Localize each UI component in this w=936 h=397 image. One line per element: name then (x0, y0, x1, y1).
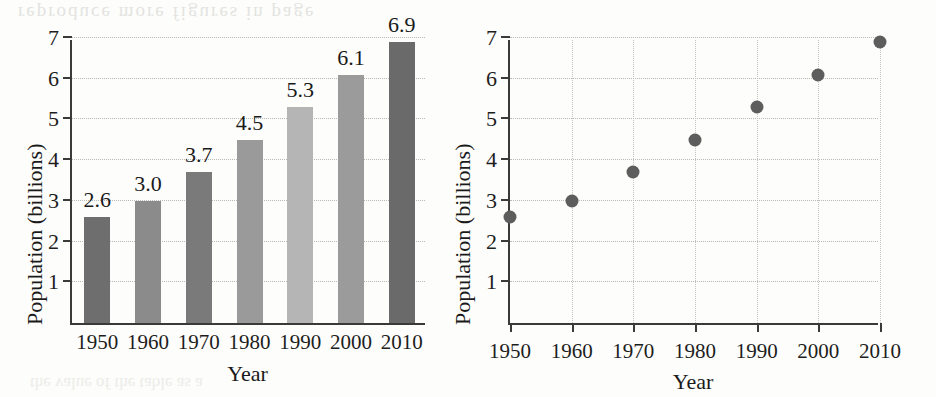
scatter-chart-vertical-gridline (818, 40, 819, 323)
scatter-chart-gridline (510, 159, 878, 160)
scatter-chart-x-tick (757, 323, 759, 332)
scatter-chart-y-tick-label: 5 (486, 106, 497, 132)
scatter-chart-x-tick (633, 323, 635, 332)
bar-value-label: 3.7 (185, 142, 213, 168)
scatter-chart-y-tick-label: 3 (486, 188, 497, 214)
bar-chart-y-tick (63, 199, 72, 201)
scatter-chart-y-tick-label: 2 (486, 229, 497, 255)
scatter-chart-gridline (510, 281, 878, 282)
scatter-chart-gridline (510, 241, 878, 242)
scatter-data-point (565, 194, 578, 207)
scatter-chart-x-tick-label: 1960 (551, 339, 593, 364)
scatter-chart-y-tick-label: 1 (486, 269, 497, 295)
bar-chart-x-tick-label: 1980 (229, 330, 271, 355)
bar (186, 172, 212, 323)
bar-chart-x-tick-label: 2010 (381, 330, 423, 355)
scatter-chart-vertical-gridline (695, 40, 696, 323)
scatter-chart-x-tick-label: 2000 (797, 339, 839, 364)
scatter-data-point (627, 166, 640, 179)
scatter-chart-y-tick (501, 36, 510, 38)
bar-value-label: 5.3 (286, 77, 314, 103)
scatter-data-point (689, 133, 702, 146)
bar-chart-x-tick-label: 1990 (279, 330, 321, 355)
bar-chart-plot-area: 12345672.619503.019603.719704.519805.319… (70, 40, 425, 325)
bar-chart-y-tick-label: 4 (48, 147, 59, 173)
bar-value-label: 6.9 (388, 12, 416, 38)
bar-value-label: 2.6 (84, 187, 112, 213)
scanned-figure-page: reproduce more figures in page the value… (0, 0, 936, 397)
bar-chart-y-tick (63, 158, 72, 160)
scatter-chart-gridline (510, 37, 878, 38)
scatter-chart-x-tick (880, 323, 882, 332)
scatter-chart-y-tick-label: 4 (486, 147, 497, 173)
scatter-chart-vertical-gridline (633, 40, 634, 323)
bar (135, 201, 161, 323)
bar-value-label: 3.0 (134, 171, 162, 197)
bar-value-label: 6.1 (337, 45, 365, 71)
scatter-chart-y-tick-label: 6 (486, 66, 497, 92)
bar-chart-gridline (72, 37, 425, 38)
scatter-chart-y-tick-label: 7 (486, 25, 497, 51)
bar (338, 75, 364, 323)
scatter-chart-vertical-gridline (572, 40, 573, 323)
scatter-chart-x-tick-label: 2010 (859, 339, 901, 364)
scatter-chart-gridline (510, 118, 878, 119)
bar-chart-y-tick (63, 77, 72, 79)
bar-chart-y-tick-label: 5 (48, 106, 59, 132)
bar-chart-y-tick (63, 280, 72, 282)
bar (389, 42, 415, 323)
scatter-chart-x-tick-label: 1950 (489, 339, 531, 364)
bar-chart-y-tick-label: 7 (48, 25, 59, 51)
scatter-data-point (750, 101, 763, 114)
bar-chart: Population (billions) 12345672.619503.01… (0, 0, 468, 397)
bar-chart-y-tick-label: 1 (48, 269, 59, 295)
bar (84, 217, 110, 323)
scatter-chart-x-tick (818, 323, 820, 332)
scatter-data-point (504, 211, 517, 224)
bar-chart-y-tick (63, 117, 72, 119)
scatter-chart-y-tick (501, 77, 510, 79)
scatter-chart-vertical-gridline (880, 40, 881, 323)
bar-chart-gridline (72, 78, 425, 79)
scatter-chart-y-axis-title: Population (billions) (450, 144, 476, 326)
bar-chart-x-tick-label: 2000 (330, 330, 372, 355)
bar-chart-y-axis-title: Population (billions) (22, 144, 48, 326)
bar (287, 107, 313, 323)
scatter-chart-y-tick (501, 117, 510, 119)
scatter-chart-y-tick (501, 199, 510, 201)
bar-chart-y-tick (63, 240, 72, 242)
bar (237, 140, 263, 323)
scatter-chart-y-tick (501, 158, 510, 160)
scatter-data-point (874, 36, 887, 49)
bar-chart-y-tick-label: 3 (48, 188, 59, 214)
bar-chart-x-tick-label: 1970 (178, 330, 220, 355)
bar-chart-y-tick-label: 6 (48, 66, 59, 92)
bar-chart-x-axis-title: Year (70, 361, 425, 387)
bar-chart-x-tick-label: 1950 (76, 330, 118, 355)
bar-value-label: 4.5 (236, 110, 264, 136)
scatter-chart-x-axis-title: Year (508, 369, 878, 395)
scatter-chart-x-tick (572, 323, 574, 332)
scatter-chart-y-tick (501, 240, 510, 242)
scatter-chart-x-tick-label: 1980 (674, 339, 716, 364)
bar-chart-y-tick (63, 36, 72, 38)
scatter-chart-plot-area: 12345671950196019701980199020002010 (508, 40, 878, 325)
bar-chart-x-tick-label: 1960 (127, 330, 169, 355)
bar-chart-y-tick-label: 2 (48, 229, 59, 255)
scatter-data-point (812, 68, 825, 81)
scatter-chart-x-tick (510, 323, 512, 332)
scatter-chart-x-tick-label: 1970 (612, 339, 654, 364)
scatter-chart-x-tick-label: 1990 (736, 339, 778, 364)
scatter-chart-vertical-gridline (757, 40, 758, 323)
scatter-chart-x-tick (695, 323, 697, 332)
scatter-chart-y-tick (501, 280, 510, 282)
scatter-chart: Population (billions) 123456719501960197… (468, 0, 936, 397)
